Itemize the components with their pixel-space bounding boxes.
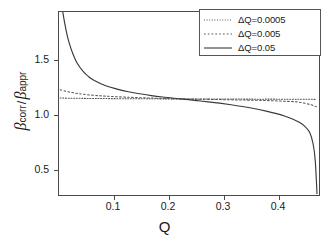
- legend-item-2: ΔQ=0.05: [204, 41, 316, 54]
- y-axis-sub-appr: appr: [17, 72, 28, 92]
- legend-item-1: ΔQ=0.005: [204, 27, 316, 40]
- x-tick-label-0.3: 0.3: [203, 200, 243, 212]
- x-tick-label-0.1: 0.1: [93, 200, 133, 212]
- x-tick-label-0.4: 0.4: [258, 200, 298, 212]
- y-axis-separator: /: [14, 100, 29, 106]
- y-tick-0.5: [54, 170, 59, 171]
- legend-line-sample-fine-dotted: [204, 16, 232, 24]
- x-axis-title: Q: [0, 218, 329, 235]
- legend-item-0: ΔQ=0.0005: [204, 13, 316, 26]
- legend: ΔQ=0.0005 ΔQ=0.005 ΔQ=0.05: [199, 9, 321, 56]
- legend-label-2: ΔQ=0.05: [238, 42, 275, 53]
- y-axis-title: βcorr/βappr: [12, 36, 30, 166]
- y-axis-sub-corr: corr: [17, 105, 28, 122]
- x-tick-label-0.2: 0.2: [148, 200, 188, 212]
- y-tick-1.5: [54, 60, 59, 61]
- figure: 1.5 1.0 0.5 0.1 0.2 0.3 0.4 Q βcorr/βapp…: [0, 0, 329, 243]
- y-tick-1.0: [54, 115, 59, 116]
- y-axis-beta-numerator: β: [12, 122, 29, 130]
- x-axis-title-text: Q: [159, 218, 171, 235]
- legend-label-0: ΔQ=0.0005: [238, 14, 285, 25]
- legend-label-1: ΔQ=0.005: [238, 28, 280, 39]
- legend-line-sample-dotted: [204, 30, 232, 38]
- y-axis-beta-denominator: β: [12, 92, 29, 100]
- legend-line-sample-solid: [204, 44, 232, 52]
